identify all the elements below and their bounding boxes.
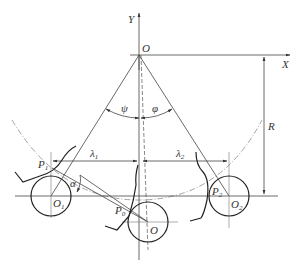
- o2-label: O2: [231, 198, 243, 212]
- x-axis-label: X: [281, 58, 290, 70]
- center-dashed-line: [141, 55, 148, 250]
- mechanism-diagram: Y X O ψ φ R λ1 λ2 O1 P1 α O P0 O2 P2: [0, 0, 302, 264]
- o-center-label: O: [150, 224, 158, 236]
- reference-arc: [12, 120, 262, 200]
- p0-label: P0: [114, 204, 126, 218]
- alpha-ref-line: [80, 175, 148, 222]
- alpha-line: [52, 168, 148, 222]
- alpha-label: α: [70, 177, 76, 189]
- lambda1-label: λ1: [89, 147, 98, 161]
- profile-curve-2: [190, 152, 208, 221]
- right-arm-line: [139, 55, 229, 196]
- radius-label: R: [267, 120, 275, 132]
- p1-label: P1: [37, 158, 48, 172]
- lambda2-label: λ2: [175, 147, 185, 161]
- phi-label: φ: [152, 102, 158, 114]
- profile-curve-0: [105, 165, 138, 230]
- p2-label: P2: [211, 185, 223, 199]
- o1-label: O1: [53, 197, 64, 211]
- psi-label: ψ: [121, 102, 128, 114]
- y-axis-label: Y: [128, 13, 136, 25]
- origin-label: O: [142, 42, 150, 54]
